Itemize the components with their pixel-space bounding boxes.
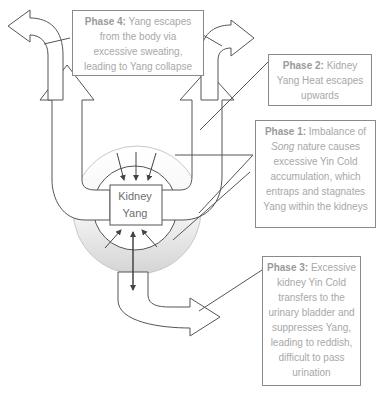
top-left-arrow (8, 10, 63, 100)
phase2-box: Phase 2: Kidney Yang Heat escapes upward… (268, 54, 372, 106)
phase3-title: Phase 3: (267, 262, 308, 273)
center-label: Kidney Yang (110, 188, 160, 222)
center-line1: Kidney (110, 188, 160, 205)
phase1-italic: Song (271, 141, 294, 152)
right-up-arrow (160, 70, 234, 220)
phase3-box: Phase 3: Excessive kidney Yin Cold trans… (262, 256, 361, 386)
phase4-title: Phase 4: (85, 16, 126, 27)
phase1-title: Phase 1: (265, 126, 306, 137)
phase1-text-a: Imbalance of (306, 126, 366, 137)
phase3-text: Excessive kidney Yin Cold transfers to t… (268, 262, 356, 378)
center-line2: Yang (110, 205, 160, 222)
phase2-title: Phase 2: (283, 60, 324, 71)
top-right-arrow (201, 20, 254, 100)
phase4-box: Phase 4: Yang escapes from the body via … (72, 10, 204, 76)
phase1-box: Phase 1: Imbalance of Song nature causes… (255, 120, 376, 228)
